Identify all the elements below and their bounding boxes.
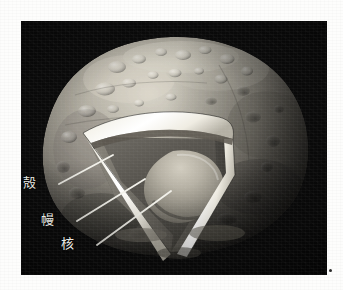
label-core: 核 — [61, 237, 74, 250]
label-mantle: 幔 — [41, 213, 54, 226]
page-root: 殻 幔 核 — [0, 0, 343, 290]
label-crust: 殻 — [23, 176, 36, 189]
asteroid-cutaway-figure: 殻 幔 核 — [21, 21, 327, 275]
scan-artifact-dot — [329, 269, 332, 272]
